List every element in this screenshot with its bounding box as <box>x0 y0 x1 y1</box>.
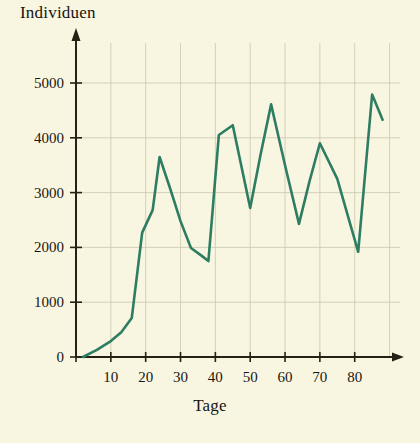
series-polyline <box>83 95 383 357</box>
chart-gridlines <box>76 43 400 357</box>
x-tick-label: 70 <box>312 369 327 386</box>
x-tick-label: 50 <box>243 369 258 386</box>
x-tick-label: 20 <box>138 369 153 386</box>
x-tick-label: 40 <box>208 369 223 386</box>
y-tick-label: 2000 <box>10 239 64 256</box>
chart-figure: Individuen 010002000300040005000 1020304… <box>0 0 420 443</box>
y-tick-label: 1000 <box>10 294 64 311</box>
y-axis-arrowhead <box>72 28 81 41</box>
x-tick-label: 60 <box>278 369 293 386</box>
x-tick-label: 10 <box>103 369 118 386</box>
x-tick-label: 30 <box>173 369 188 386</box>
y-tick-label: 4000 <box>10 129 64 146</box>
y-tick-label: 5000 <box>10 75 64 92</box>
x-tick-label: 80 <box>347 369 362 386</box>
y-tick-label: 3000 <box>10 184 64 201</box>
data-series-line <box>83 95 383 357</box>
y-tick-label: 0 <box>10 349 64 366</box>
x-axis-title: Tage <box>0 396 420 416</box>
x-axis-arrowhead <box>392 353 404 362</box>
chart-axes <box>72 28 405 362</box>
